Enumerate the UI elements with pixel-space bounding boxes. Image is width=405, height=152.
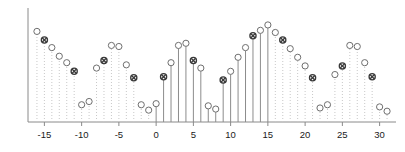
x-tick-30: 30 — [374, 122, 385, 140]
stem-point — [257, 27, 263, 122]
marker-circle — [198, 65, 204, 71]
stem-point — [250, 33, 256, 122]
marker-circle — [49, 44, 55, 50]
marker-circle — [175, 42, 181, 48]
stem-point — [287, 46, 293, 122]
stem-point — [101, 57, 107, 122]
stem-point — [123, 62, 129, 122]
x-tick--10: -10 — [75, 122, 89, 140]
marker-circle — [228, 68, 234, 74]
stem-point — [64, 60, 70, 122]
marker-circle — [235, 54, 241, 60]
stem-point — [146, 107, 152, 122]
marker-circle — [56, 53, 62, 59]
x-tick-label: 0 — [153, 129, 158, 140]
stem-point — [339, 63, 345, 122]
marker-circle — [34, 28, 40, 34]
stem-point — [213, 106, 219, 122]
stem-point — [175, 42, 181, 122]
stem-point — [309, 75, 315, 122]
stem-point — [242, 44, 248, 122]
marker-circle — [205, 103, 211, 109]
marker-circle — [265, 22, 271, 28]
x-tick-label: 5 — [191, 129, 196, 140]
stem-point — [235, 54, 241, 122]
x-tick-label: -15 — [38, 129, 52, 140]
marker-circle — [257, 27, 263, 33]
stem-point — [295, 54, 301, 122]
x-axis: -15-10-5051015202530 — [28, 122, 396, 140]
stem-plot-figure: -15-10-5051015202530 — [0, 0, 405, 152]
marker-circle — [123, 62, 129, 68]
marker-circle — [242, 44, 248, 50]
stem-point — [160, 74, 166, 122]
marker-circle — [79, 102, 85, 108]
marker-circle — [317, 105, 323, 111]
stem-point — [302, 63, 308, 122]
stem-point — [347, 42, 353, 122]
marker-circle — [116, 43, 122, 49]
marker-circle — [362, 60, 368, 66]
stem-point — [332, 71, 338, 122]
marker-circle — [354, 43, 360, 49]
stem-point — [377, 104, 383, 122]
stem-point — [183, 40, 189, 122]
stem-point — [324, 102, 330, 122]
stem-point — [56, 53, 62, 122]
marker-circle — [153, 101, 159, 107]
stem-point — [354, 43, 360, 122]
stem-point — [190, 57, 196, 122]
stem-point — [317, 105, 323, 122]
stem-point — [93, 65, 99, 122]
marker-circle — [302, 63, 308, 69]
marker-circle — [213, 106, 219, 112]
stem-point — [228, 68, 234, 122]
x-tick-label: 20 — [300, 129, 311, 140]
marker-circle — [347, 42, 353, 48]
x-tick-label: 15 — [263, 129, 274, 140]
x-tick-label: 30 — [374, 129, 385, 140]
marker-circle — [183, 40, 189, 46]
stem-series — [34, 22, 390, 122]
marker-circle — [168, 60, 174, 66]
marker-circle — [324, 102, 330, 108]
stem-point — [272, 29, 278, 122]
x-tick-10: 10 — [225, 122, 236, 140]
stem-point — [49, 44, 55, 122]
marker-circle — [377, 104, 383, 110]
stem-point — [168, 60, 174, 122]
marker-circle — [138, 102, 144, 108]
stem-point — [384, 108, 390, 122]
stem-point — [41, 37, 47, 122]
x-tick-15: 15 — [263, 122, 274, 140]
stem-point — [138, 102, 144, 122]
x-tick-label: -5 — [115, 129, 123, 140]
stem-point — [86, 98, 92, 122]
marker-circle — [108, 42, 114, 48]
x-tick--5: -5 — [115, 122, 123, 140]
marker-circle — [86, 98, 92, 104]
marker-circle — [272, 29, 278, 35]
stem-point — [34, 28, 40, 122]
marker-circle — [287, 46, 293, 52]
stem-point — [71, 68, 77, 122]
x-tick--15: -15 — [38, 122, 52, 140]
stem-point — [362, 60, 368, 122]
x-tick-label: 10 — [225, 129, 236, 140]
marker-circle — [146, 107, 152, 113]
marker-circle — [295, 54, 301, 60]
marker-circle — [64, 60, 70, 66]
x-tick-20: 20 — [300, 122, 311, 140]
x-tick-5: 5 — [191, 122, 196, 140]
marker-circle — [384, 108, 390, 114]
stem-plot-canvas: -15-10-5051015202530 — [0, 0, 405, 152]
marker-circle — [332, 71, 338, 77]
marker-circle — [93, 65, 99, 71]
x-tick-0: 0 — [153, 122, 158, 140]
stem-point — [79, 102, 85, 122]
x-tick-label: -10 — [75, 129, 89, 140]
stem-point — [205, 103, 211, 122]
stem-point — [220, 77, 226, 122]
stem-point — [198, 65, 204, 122]
x-tick-25: 25 — [337, 122, 348, 140]
